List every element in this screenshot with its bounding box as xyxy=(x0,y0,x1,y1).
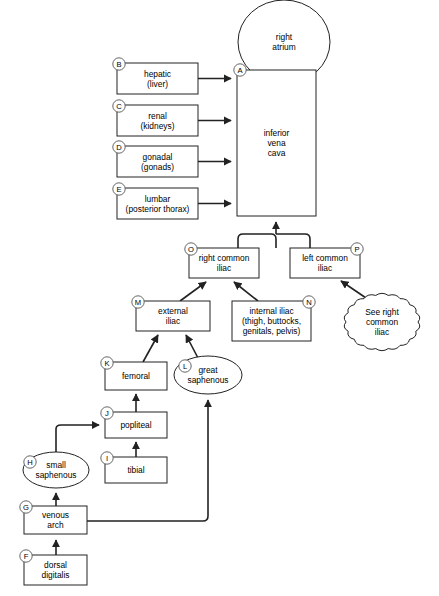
key-label-o: O xyxy=(185,243,197,255)
edge-femoral-to-external xyxy=(143,335,158,362)
key-label-m: M xyxy=(132,296,144,308)
key-label-a: A xyxy=(234,64,246,76)
key-letter-o: O xyxy=(188,245,194,254)
key-label-l: L xyxy=(179,360,191,372)
edge-iliac-bracket xyxy=(238,234,276,248)
venous-circulation-diagram: rightatriuminferiorvenacavahepatic(liver… xyxy=(0,0,439,596)
key-label-k: K xyxy=(101,357,113,369)
node-renal: renal(kidneys) xyxy=(117,105,198,136)
key-letter-e: E xyxy=(116,185,121,194)
node-gonadal: gonadal(gonads) xyxy=(117,146,198,177)
nodes-layer: rightatriuminferiorvenacavahepatic(liver… xyxy=(23,0,420,585)
key-letter-k: K xyxy=(104,359,109,368)
node-external_iliac: externaliliac xyxy=(136,301,210,331)
key-letter-f: F xyxy=(24,552,29,561)
key-label-h: H xyxy=(24,456,36,468)
key-letter-i: I xyxy=(106,454,108,463)
node-left_common_iliac: left commoniliac xyxy=(290,248,360,278)
key-label-i: I xyxy=(101,452,113,464)
key-letter-b: B xyxy=(116,60,121,69)
key-label-f: F xyxy=(20,550,32,562)
node-label-tibial: tibial xyxy=(127,465,144,475)
key-letter-h: H xyxy=(27,458,32,467)
node-label-femoral: femoral xyxy=(122,371,150,381)
key-label-n: N xyxy=(303,296,315,308)
edge-internal-to-right-common xyxy=(234,282,258,301)
edge-great-saph-to-external xyxy=(186,335,198,358)
key-label-c: C xyxy=(113,100,125,112)
node-label-gonadal: gonadal(gonads) xyxy=(141,152,174,172)
node-internal_iliac: internal iliac(thigh, buttocks,genitals,… xyxy=(232,301,311,341)
key-letter-g: G xyxy=(23,503,29,512)
node-femoral: femoral xyxy=(105,362,167,390)
key-label-j: J xyxy=(101,407,113,419)
key-label-p: P xyxy=(351,243,363,255)
node-right_common_iliac: right commoniliac xyxy=(189,248,259,278)
node-dorsal_digitalis: dorsaldigitalis xyxy=(24,555,87,585)
edge-external-to-right-common xyxy=(180,282,206,301)
edges-layer xyxy=(56,79,369,556)
node-label-popliteal: popliteal xyxy=(120,420,151,430)
node-inferior_vena_cava: inferiorvenacava xyxy=(237,70,316,216)
key-label-e: E xyxy=(113,183,125,195)
node-lumbar: lumbar(posterior thorax) xyxy=(117,188,198,219)
key-letter-m: M xyxy=(135,298,141,307)
node-tibial: tibial xyxy=(105,457,167,483)
edge-small-saph-to-popliteal xyxy=(56,425,99,452)
key-letter-d: D xyxy=(116,143,122,152)
key-label-d: D xyxy=(113,141,125,153)
key-letter-l: L xyxy=(183,362,187,371)
node-popliteal: popliteal xyxy=(105,412,167,438)
node-hepatic: hepatic(liver) xyxy=(117,63,198,94)
key-letter-c: C xyxy=(116,102,122,111)
node-label-hepatic: hepatic(liver) xyxy=(144,69,171,89)
key-letter-n: N xyxy=(306,298,311,307)
key-letter-p: P xyxy=(354,245,359,254)
node-see_right_common_iliac: See rightcommoniliac xyxy=(344,293,420,350)
node-venous_arch: venousarch xyxy=(24,506,87,534)
key-label-b: B xyxy=(113,58,125,70)
key-label-g: G xyxy=(20,501,32,513)
node-label-dorsal_digitalis: dorsaldigitalis xyxy=(42,560,70,580)
key-letter-j: J xyxy=(105,409,109,418)
edge-left-iliac-bracket xyxy=(276,234,310,248)
node-label-internal_iliac: internal iliac(thigh, buttocks,genitals,… xyxy=(242,306,301,336)
